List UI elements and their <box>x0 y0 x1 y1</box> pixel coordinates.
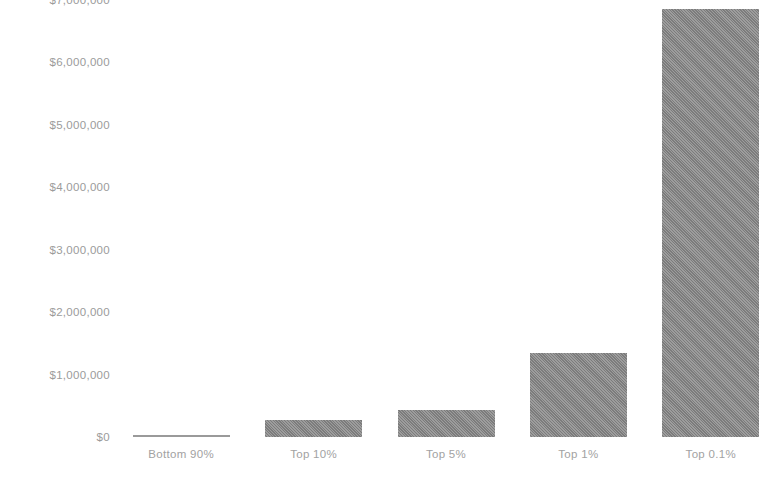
x-tick-label: Top 0.1% <box>645 448 777 460</box>
y-tick-label: $4,000,000 <box>0 181 110 193</box>
x-tick-label: Top 10% <box>247 448 379 460</box>
y-tick-label: $3,000,000 <box>0 244 110 256</box>
x-tick-label: Top 1% <box>512 448 644 460</box>
bar-slot <box>530 0 627 437</box>
y-tick-label: $2,000,000 <box>0 306 110 318</box>
plot-area <box>115 0 777 437</box>
bar-slot <box>265 0 362 437</box>
bar-slot <box>133 0 230 437</box>
x-tick-label: Top 5% <box>380 448 512 460</box>
bar[interactable] <box>265 420 362 437</box>
bar-chart: $0$1,000,000$2,000,000$3,000,000$4,000,0… <box>0 0 777 490</box>
bar[interactable] <box>530 353 627 437</box>
x-axis: Bottom 90%Top 10%Top 5%Top 1%Top 0.1% <box>115 437 777 490</box>
y-tick-label: $0 <box>0 431 110 443</box>
y-tick-label: $1,000,000 <box>0 369 110 381</box>
bar-slot <box>662 0 759 437</box>
x-tick-label: Bottom 90% <box>115 448 247 460</box>
y-tick-label: $6,000,000 <box>0 56 110 68</box>
y-tick-label: $5,000,000 <box>0 119 110 131</box>
bar-slot <box>398 0 495 437</box>
bar[interactable] <box>398 410 495 437</box>
bar[interactable] <box>662 9 759 437</box>
y-tick-label: $7,000,000 <box>0 0 110 6</box>
y-axis: $0$1,000,000$2,000,000$3,000,000$4,000,0… <box>0 0 110 490</box>
